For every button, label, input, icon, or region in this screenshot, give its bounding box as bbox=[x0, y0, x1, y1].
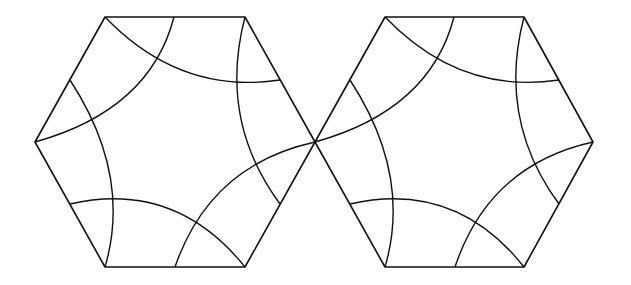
left-hexagon-arc-4 bbox=[175, 142, 315, 267]
left-hexagon-arc-6 bbox=[70, 80, 113, 267]
left-hexagon bbox=[35, 17, 315, 267]
left-hexagon-outline bbox=[35, 17, 315, 267]
right-hexagon-arc-1 bbox=[385, 17, 559, 82]
left-hexagon-arc-5 bbox=[70, 199, 245, 267]
right-hexagon-arc-5 bbox=[350, 199, 524, 267]
left-hexagon-arc-1 bbox=[105, 17, 280, 82]
hexagon-pattern-figure bbox=[0, 0, 631, 285]
right-hexagon-arc-3 bbox=[516, 17, 559, 204]
right-hexagon-arc-4 bbox=[455, 142, 593, 267]
right-hexagon bbox=[315, 17, 593, 267]
left-hexagon-arc-3 bbox=[237, 17, 280, 204]
left-hexagon-arc-2 bbox=[35, 17, 174, 142]
right-hexagon-arc-6 bbox=[350, 80, 393, 267]
right-hexagon-outline bbox=[315, 17, 593, 267]
right-hexagon-arc-2 bbox=[315, 17, 454, 142]
